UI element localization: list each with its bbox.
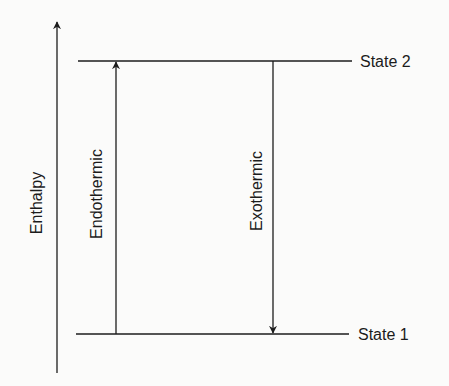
enthalpy-axis-label: Enthalpy (29, 172, 45, 234)
state1-label: State 1 (358, 327, 409, 343)
exothermic-label: Exothermic (249, 151, 265, 231)
endothermic-label: Endothermic (89, 149, 105, 239)
enthalpy-diagram: Enthalpy Endothermic Exothermic State 2 … (0, 0, 449, 386)
state2-label: State 2 (360, 54, 411, 70)
